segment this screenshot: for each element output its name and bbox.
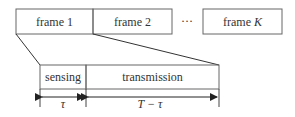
frame-1-box: frame 1 xyxy=(16,9,93,34)
frame-2-box: frame 2 xyxy=(93,9,172,34)
t-minus-tau-label: T − τ xyxy=(138,97,164,111)
sensing-label: sensing xyxy=(45,70,81,84)
transmission-label: transmission xyxy=(122,70,183,84)
zoom-line-right xyxy=(93,34,219,65)
frame-k-box: frame K xyxy=(203,9,282,34)
zoom-line-left xyxy=(16,34,40,65)
tau-duration-arrow: τ xyxy=(42,97,84,111)
frame-2-label: frame 2 xyxy=(114,15,151,29)
tau-label: τ xyxy=(61,97,66,111)
transmission-segment: transmission xyxy=(86,65,219,89)
t-minus-tau-duration-arrow: T − τ xyxy=(88,97,217,111)
frame-k-label: frame K xyxy=(223,15,263,29)
ellipsis: ··· xyxy=(181,14,193,28)
sensing-segment: sensing xyxy=(40,65,86,89)
frame-1-label: frame 1 xyxy=(36,15,73,29)
frame-structure-diagram: frame 1 frame 2 ··· frame K sensing tran… xyxy=(0,0,295,117)
